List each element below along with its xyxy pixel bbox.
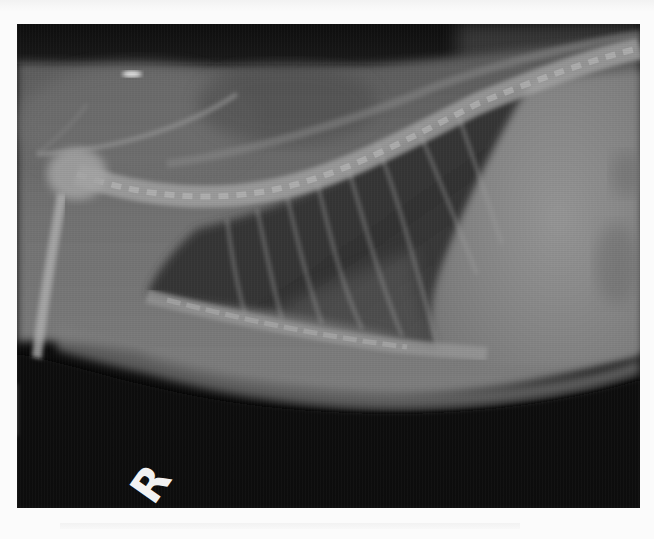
page-margin-top (0, 0, 654, 12)
radiograph: R (17, 24, 640, 508)
page-margin-bottom (60, 523, 520, 529)
radiograph-anatomy (17, 24, 640, 508)
